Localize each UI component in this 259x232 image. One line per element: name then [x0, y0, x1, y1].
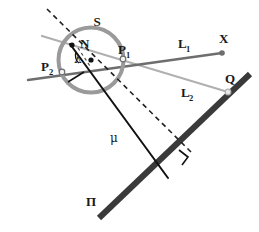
label-line-l2-subscript: 2	[189, 93, 193, 103]
geometry-figure: S N P 1 P 2 L 1 L 2 X Q λ μ Π	[0, 0, 259, 232]
point-center-marker	[88, 57, 93, 62]
point-q-marker	[225, 89, 231, 95]
point-n-marker	[69, 42, 74, 47]
label-line-l1-subscript: 1	[186, 44, 190, 54]
label-point-q: Q	[225, 71, 235, 86]
label-plane-pi: Π	[86, 194, 96, 209]
label-point-p1-subscript: 1	[126, 50, 130, 60]
point-p2-marker	[59, 69, 65, 75]
label-point-p2: P	[41, 59, 49, 74]
label-point-p1: P	[118, 42, 126, 57]
label-angle-lambda: λ	[74, 52, 82, 66]
label-point-p2-subscript: 2	[49, 67, 53, 77]
label-point-n: N	[80, 36, 90, 51]
label-point-x: X	[219, 31, 229, 46]
point-p1-marker	[120, 56, 126, 62]
geometry-canvas: S N P 1 P 2 L 1 L 2 X Q λ μ Π	[0, 0, 259, 232]
label-sphere-s: S	[93, 14, 100, 29]
label-segment-mu: μ	[110, 131, 118, 145]
point-x-marker	[219, 50, 225, 56]
